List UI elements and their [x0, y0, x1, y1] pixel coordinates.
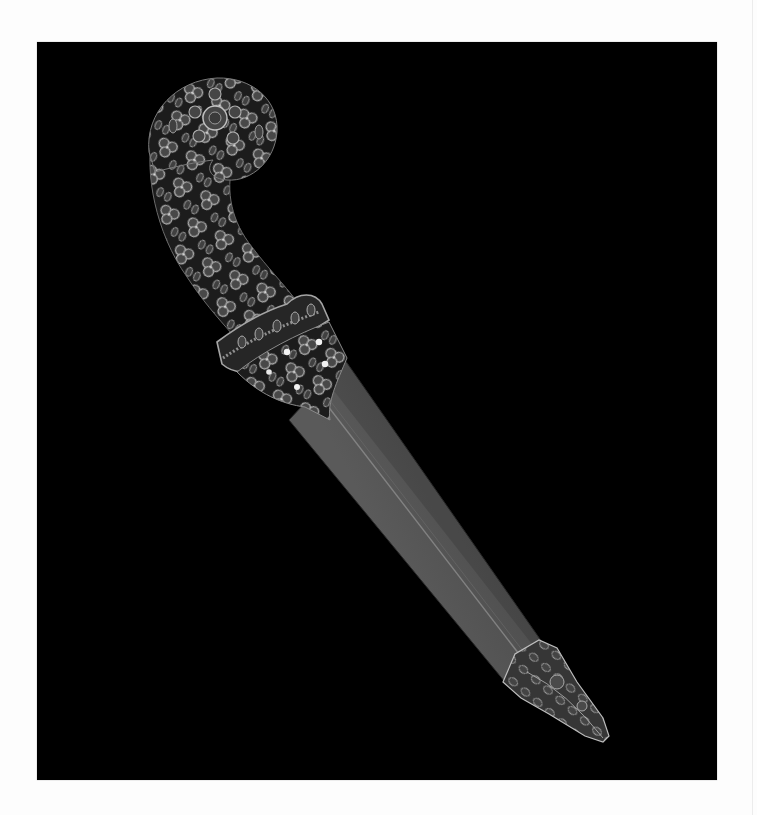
page	[0, 0, 757, 815]
dagger-illustration	[37, 42, 717, 780]
page-edge-line	[752, 0, 753, 815]
photo-frame	[37, 42, 717, 780]
chape	[503, 640, 609, 742]
pommel	[149, 78, 277, 180]
